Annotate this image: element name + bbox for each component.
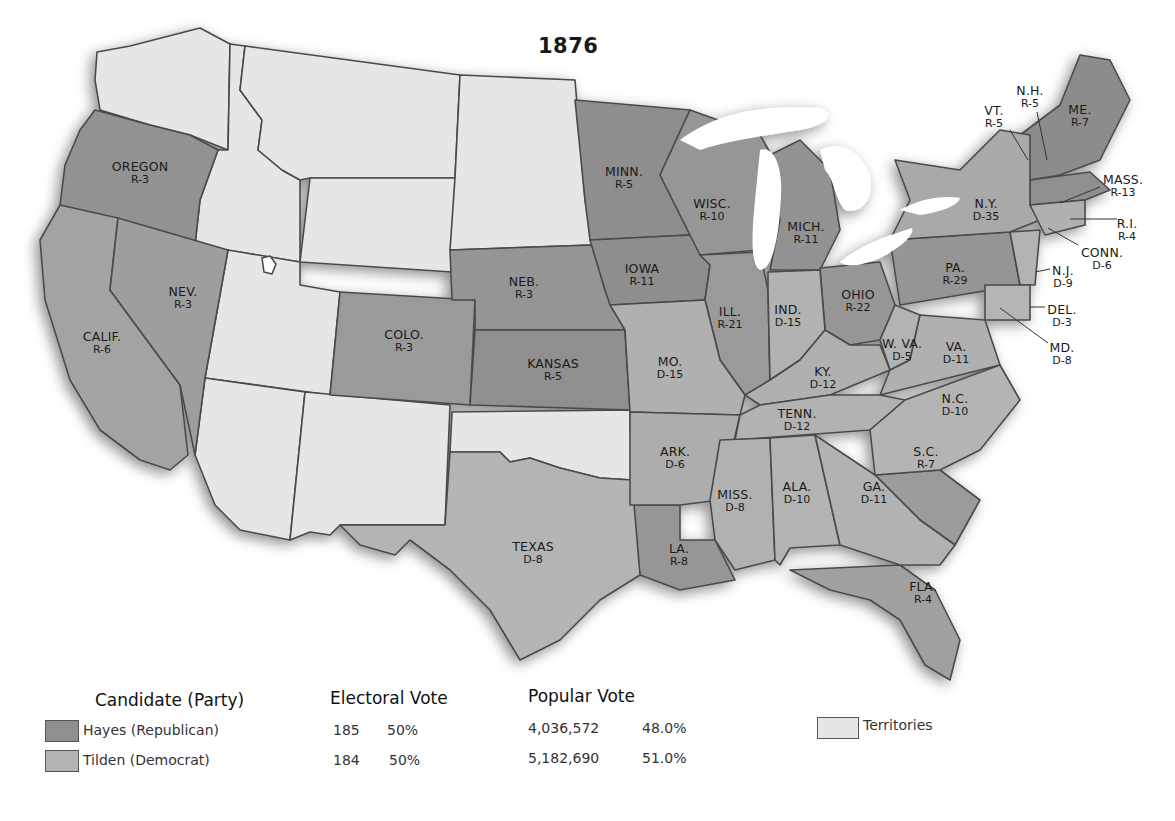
state-label-missouri: MO.D-15 [657, 355, 683, 381]
state-label-mississippi: MISS.D-8 [717, 488, 752, 514]
legend: Candidate (Party) Electoral Vote Popular… [0, 690, 1175, 790]
state-label-delaware: DEL.D-3 [1047, 303, 1076, 329]
legend-header-popular: Popular Vote [528, 686, 635, 706]
maryland-delaware [985, 285, 1030, 320]
state-label-massachusetts: MASS.R-13 [1103, 173, 1143, 199]
legend-ev-hayes: 185 [333, 722, 360, 738]
state-label-kentucky: KY.D-12 [810, 365, 836, 391]
state-label-ohio: OHIOR-22 [841, 288, 875, 314]
legend-swatch-hayes [45, 720, 79, 742]
state-label-maine: ME.R-7 [1068, 103, 1091, 129]
legend-ev-pct-hayes: 50% [387, 722, 418, 738]
legend-pv-tilden: 5,182,690 [528, 750, 599, 766]
state-label-vermont: VT.R-5 [984, 104, 1003, 130]
state-label-louisiana: LA.R-8 [669, 542, 689, 568]
state-label-maryland: MD.D-8 [1050, 341, 1075, 367]
state-label-south-carolina: S.C.R-7 [913, 445, 938, 471]
map-title: 1876 [538, 34, 598, 58]
state-label-wisconsin: WISC.R-10 [693, 197, 731, 223]
state-label-alabama: ALA.D-10 [783, 480, 812, 506]
state-label-nevada: NEV.R-3 [169, 285, 198, 311]
legend-swatch-territories [817, 717, 859, 739]
state-label-connecticut: CONN.D-6 [1081, 246, 1123, 272]
state-label-indiana: IND.D-15 [774, 303, 801, 329]
state-label-rhode-island: R.I.R-4 [1117, 217, 1138, 243]
state-label-illinois: ILL.R-21 [717, 305, 742, 331]
legend-header-electoral: Electoral Vote [330, 688, 448, 708]
state-label-oregon: OREGONR-3 [112, 160, 169, 186]
legend-pv-hayes: 4,036,572 [528, 720, 599, 736]
state-label-california: CALIF.R-6 [83, 330, 121, 356]
new-mexico-territory [290, 392, 450, 540]
state-label-nebraska: NEB.R-3 [509, 275, 540, 301]
arizona-territory [195, 378, 305, 540]
legend-header-candidate: Candidate (Party) [95, 690, 244, 710]
state-label-texas: TEXASD-8 [512, 540, 554, 566]
state-label-pennsylvania: PA.R-29 [942, 261, 967, 287]
state-label-florida: FLA.R-4 [909, 580, 937, 606]
legend-candidate-tilden: Tilden (Democrat) [83, 752, 210, 768]
state-label-north-carolina: N.C.D-10 [942, 392, 969, 418]
legend-ev-tilden: 184 [333, 752, 360, 768]
legend-territories-label: Territories [863, 717, 933, 733]
state-label-michigan: MICH.R-11 [787, 220, 824, 246]
state-label-new-york: N.Y.D-35 [973, 197, 999, 223]
dakota-territory [450, 75, 592, 250]
state-label-colorado: COLO.R-3 [384, 328, 423, 354]
state-label-georgia: GA.D-11 [861, 480, 887, 506]
state-label-iowa: IOWAR-11 [625, 262, 660, 288]
legend-candidate-hayes: Hayes (Republican) [83, 722, 219, 738]
new-york [890, 130, 1040, 240]
legend-ev-pct-tilden: 50% [389, 752, 420, 768]
legend-pv-pct-tilden: 51.0% [642, 750, 686, 766]
state-label-kansas: KANSASR-5 [527, 357, 579, 383]
montana-territory [240, 46, 460, 180]
legend-pv-pct-hayes: 48.0% [642, 720, 686, 736]
legend-swatch-tilden [45, 750, 79, 772]
state-label-new-hampshire: N.H.R-5 [1016, 84, 1043, 110]
state-label-minnesota: MINN.R-5 [605, 165, 643, 191]
state-label-west-virginia: W. VA.D-5 [882, 337, 922, 363]
state-label-arkansas: ARK.D-6 [660, 445, 690, 471]
wyoming-territory [300, 178, 455, 272]
state-label-new-jersey: N.J.D-9 [1052, 264, 1074, 290]
state-label-virginia: VA.D-11 [943, 340, 969, 366]
state-label-tennessee: TENN.D-12 [777, 407, 816, 433]
